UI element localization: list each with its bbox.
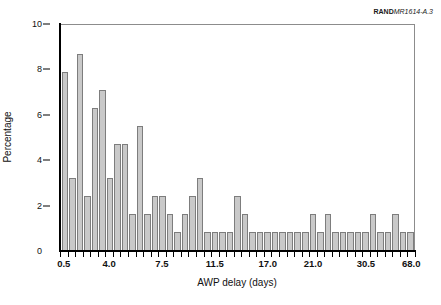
x-tick-label: 7.5 <box>155 258 168 269</box>
x-tick-mark <box>302 252 303 257</box>
bar <box>197 178 204 250</box>
bar <box>407 232 414 250</box>
x-tick-mark <box>385 252 386 257</box>
x-tick-mark <box>362 252 363 257</box>
bar <box>77 54 84 250</box>
x-tick-mark <box>120 252 121 257</box>
bar <box>129 214 136 250</box>
bar <box>92 108 99 250</box>
x-tick-label: 68.0 <box>402 258 421 269</box>
y-tick-label: 0 <box>37 246 42 256</box>
x-tick-mark <box>136 252 137 257</box>
x-tick-mark <box>181 252 182 257</box>
x-tick-mark <box>90 252 91 257</box>
bar <box>377 232 384 250</box>
x-tick-mark <box>392 252 393 257</box>
bar <box>174 232 181 250</box>
x-tick-mark <box>151 252 152 257</box>
x-tick-mark <box>98 252 99 257</box>
x-tick-mark <box>287 252 288 257</box>
x-tick-mark <box>113 252 114 257</box>
bar <box>400 232 407 250</box>
bar <box>84 196 91 250</box>
x-tick-mark <box>105 252 106 257</box>
y-tick-label: 10 <box>32 19 42 29</box>
y-tick-mark <box>43 205 50 206</box>
x-tick-mark <box>234 252 235 257</box>
x-axis-title: AWP delay (days) <box>197 277 276 288</box>
x-tick-mark <box>83 252 84 257</box>
bar <box>114 144 121 250</box>
x-tick-mark <box>196 252 197 257</box>
bar <box>137 126 144 250</box>
y-tick-mark <box>43 160 50 161</box>
bar <box>302 232 309 250</box>
x-tick-mark <box>370 252 371 257</box>
x-tick-mark <box>173 252 174 257</box>
y-axis-title: Percentage <box>2 111 13 162</box>
x-tick-mark <box>241 252 242 257</box>
x-axis-tick-labels: 0.54.07.511.517.021.030.568.0 <box>60 258 415 272</box>
bar <box>62 72 69 250</box>
x-tick-mark <box>415 252 416 257</box>
bar <box>362 232 369 250</box>
x-tick-mark <box>219 252 220 257</box>
bar <box>227 232 234 250</box>
x-tick-mark <box>279 252 280 257</box>
y-tick-label: 8 <box>37 64 42 74</box>
bar <box>242 214 249 250</box>
x-tick-mark <box>128 252 129 257</box>
x-tick-mark <box>317 252 318 257</box>
x-tick-label: 11.5 <box>206 258 224 269</box>
bar <box>272 232 279 250</box>
bar <box>294 232 301 250</box>
bar <box>99 90 106 250</box>
bar <box>167 214 174 250</box>
bar <box>219 232 226 250</box>
bar <box>182 214 189 250</box>
bar <box>392 214 399 250</box>
y-tick-label: 4 <box>37 155 42 165</box>
y-tick-mark <box>43 24 50 25</box>
y-tick-label: 6 <box>37 110 42 120</box>
x-tick-mark <box>264 252 265 257</box>
x-tick-label: 17.0 <box>258 258 277 269</box>
x-tick-mark <box>377 252 378 257</box>
x-tick-mark <box>339 252 340 257</box>
y-tick-label: 2 <box>37 201 42 211</box>
bar <box>159 196 166 250</box>
x-tick-mark <box>309 252 310 257</box>
bar <box>249 232 256 250</box>
x-tick-mark <box>400 252 401 257</box>
bar <box>385 232 392 250</box>
bar <box>279 232 286 250</box>
bar <box>347 232 354 250</box>
bar <box>212 232 219 250</box>
rand-credit-label: RANDMR1614-A.3 <box>373 8 433 15</box>
x-tick-label: 21.0 <box>304 258 323 269</box>
y-tick-mark <box>43 114 50 115</box>
rand-report-code-text: MR1614-A.3 <box>394 8 433 15</box>
x-tick-mark <box>407 252 408 257</box>
y-axis-spine <box>59 23 61 252</box>
bar <box>325 214 332 250</box>
bar <box>332 232 339 250</box>
x-tick-mark <box>60 252 61 257</box>
bar <box>122 144 129 250</box>
x-tick-mark <box>158 252 159 257</box>
x-tick-label: 30.5 <box>357 258 376 269</box>
bar <box>234 196 241 250</box>
bar <box>370 214 377 250</box>
rand-brand-text: RAND <box>373 8 393 15</box>
bar <box>310 214 317 250</box>
x-tick-mark <box>355 252 356 257</box>
x-tick-mark <box>249 252 250 257</box>
x-tick-mark <box>271 252 272 257</box>
bar <box>152 196 159 250</box>
x-tick-mark <box>204 252 205 257</box>
bar <box>317 232 324 250</box>
bar <box>355 232 362 250</box>
x-tick-label: 0.5 <box>57 258 70 269</box>
bar <box>257 232 264 250</box>
histogram-figure: RANDMR1614-A.3 0246810 Percentage 0.54.0… <box>0 0 441 305</box>
